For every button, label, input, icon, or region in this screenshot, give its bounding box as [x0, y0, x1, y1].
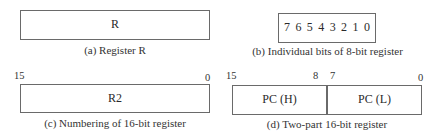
pc-low-label: PC (L): [327, 92, 422, 107]
bit-5: 5: [307, 20, 313, 35]
bit-2: 2: [341, 20, 347, 35]
caption-d: (d) Two-part 16-bit register: [232, 118, 422, 130]
bit-label-8: 8: [313, 70, 318, 81]
caption-c: (c) Numbering of 16-bit register: [20, 117, 210, 129]
bit-3: 3: [330, 20, 336, 35]
msb-label-15: 15: [14, 70, 25, 81]
bit-numbers: 7 6 5 4 3 2 1 0: [284, 20, 370, 35]
caption-b: (b) Individual bits of 8-bit register: [235, 45, 420, 57]
bit-label-7: 7: [330, 70, 335, 81]
bit-label-0: 0: [418, 72, 423, 83]
caption-a: (a) Register R: [20, 44, 210, 56]
bit-4: 4: [318, 20, 324, 35]
bit-label-15: 15: [226, 70, 237, 81]
lsb-label-0: 0: [205, 72, 210, 83]
register-r2-label: R2: [20, 91, 210, 106]
bit-1: 1: [353, 20, 359, 35]
pc-high-label: PC (H): [232, 92, 327, 107]
bit-7: 7: [284, 20, 290, 35]
bit-0: 0: [364, 20, 370, 35]
bit-6: 6: [295, 20, 301, 35]
register-r-label: R: [20, 17, 210, 32]
